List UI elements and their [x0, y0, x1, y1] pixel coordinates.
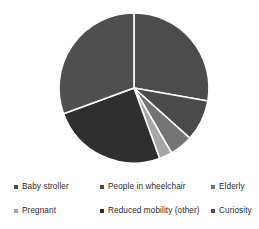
chart-legend: Baby stroller People in wheelchair Elder… — [0, 176, 259, 228]
legend-item-curiosity[interactable]: Curiosity — [211, 206, 252, 216]
legend-item-pregnant[interactable]: Pregnant — [14, 206, 100, 216]
legend-item-reduced-mobility-other[interactable]: Reduced mobility (other) — [100, 206, 211, 216]
legend-item-elderly[interactable]: Elderly — [211, 182, 245, 192]
legend-item-baby-stroller[interactable]: Baby stroller — [14, 182, 100, 192]
pie-plot-area — [0, 0, 259, 172]
legend-label-elderly: Elderly — [219, 182, 245, 192]
legend-swatch-people-in-wheelchair — [100, 185, 104, 189]
legend-label-baby-stroller: Baby stroller — [22, 182, 69, 192]
legend-label-curiosity: Curiosity — [219, 206, 252, 216]
legend-swatch-pregnant — [14, 209, 18, 213]
legend-swatch-elderly — [211, 185, 215, 189]
legend-label-reduced-mobility-other: Reduced mobility (other) — [108, 206, 200, 216]
legend-row-1: Baby stroller People in wheelchair Elder… — [0, 178, 259, 195]
pie-svg — [0, 0, 259, 172]
pie-slice-baby-stroller[interactable] — [134, 13, 209, 101]
legend-label-people-in-wheelchair: People in wheelchair — [108, 182, 186, 192]
legend-row-2: Pregnant Reduced mobility (other) Curios… — [0, 202, 259, 219]
legend-swatch-reduced-mobility-other — [100, 209, 104, 213]
pie-chart-figure: Baby stroller People in wheelchair Elder… — [0, 0, 259, 229]
legend-label-pregnant: Pregnant — [22, 206, 56, 216]
legend-swatch-baby-stroller — [14, 185, 18, 189]
legend-swatch-curiosity — [211, 209, 215, 213]
legend-item-people-in-wheelchair[interactable]: People in wheelchair — [100, 182, 211, 192]
